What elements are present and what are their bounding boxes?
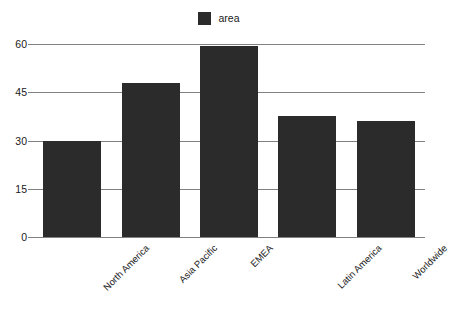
y-tick-label-45: 45 bbox=[15, 87, 27, 98]
legend-item-area[interactable]: area bbox=[198, 12, 239, 25]
y-tick-label-60: 60 bbox=[15, 39, 27, 50]
y-tick-label-15: 15 bbox=[15, 184, 27, 195]
x-tick-label-north-america: North America bbox=[102, 243, 151, 292]
y-tick-label-0: 0 bbox=[21, 232, 27, 243]
y-tick-label-30: 30 bbox=[15, 135, 27, 146]
plot-area: 015304560 bbox=[33, 44, 425, 237]
x-tick-label-asia-pacific: Asia Pacific bbox=[177, 243, 218, 284]
bar-worldwide[interactable] bbox=[357, 121, 415, 237]
bar-latin-america[interactable] bbox=[278, 116, 336, 237]
bar-asia-pacific[interactable] bbox=[122, 83, 180, 237]
x-tick-label-worldwide: Worldwide bbox=[411, 243, 449, 281]
y-tick-mark-0 bbox=[28, 237, 33, 238]
gridline-0 bbox=[33, 237, 425, 238]
chart-legend: area bbox=[0, 8, 438, 28]
bars-group bbox=[33, 44, 425, 237]
x-axis-labels: North AmericaAsia PacificEMEALatin Ameri… bbox=[33, 239, 425, 311]
x-tick-label-latin-america: Latin America bbox=[336, 243, 383, 290]
bar-north-america[interactable] bbox=[43, 141, 101, 238]
bar-emea[interactable] bbox=[200, 46, 258, 237]
legend-swatch-square-icon bbox=[198, 12, 211, 25]
legend-item-label: area bbox=[218, 13, 239, 24]
x-tick-label-emea: EMEA bbox=[249, 243, 275, 269]
